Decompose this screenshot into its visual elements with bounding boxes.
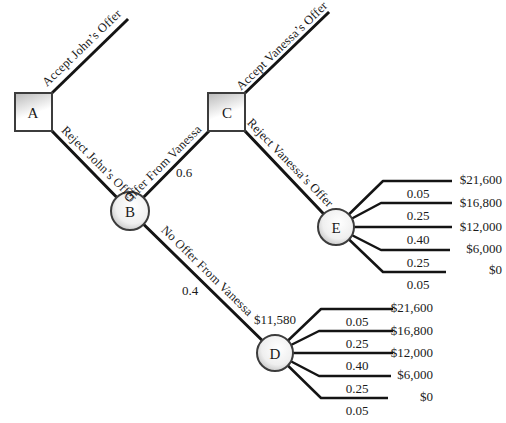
e-fan-prob-2: 0.25 bbox=[407, 209, 430, 222]
node-e-label: E bbox=[331, 221, 340, 236]
d-fan-prob-2: 0.25 bbox=[346, 337, 369, 350]
decision-tree-figure: A B C D E Accept John’s Offer Reject Joh… bbox=[0, 0, 506, 423]
e-fan-payoff-4: $6,000 bbox=[466, 242, 502, 255]
d-fan-prob-4: 0.25 bbox=[346, 382, 369, 395]
d-fan-payoff-3: $12,000 bbox=[391, 346, 433, 359]
offer-vanessa-probability: 0.6 bbox=[176, 166, 192, 179]
d-fan-payoff-5: $0 bbox=[420, 390, 433, 403]
e-fan-prob-5: 0.05 bbox=[407, 278, 430, 291]
d-fan-prob-5: 0.05 bbox=[346, 404, 369, 417]
node-d-value-label: $11,580 bbox=[254, 313, 296, 326]
node-d-label: D bbox=[270, 347, 281, 362]
e-fan-payoff-3: $12,000 bbox=[460, 220, 502, 233]
branch-accept-vanessa-line bbox=[245, 13, 328, 93]
e-fan-payoff-2: $16,800 bbox=[460, 196, 502, 209]
node-c-label: C bbox=[222, 106, 232, 121]
branch-reject-vanessa-line bbox=[245, 131, 336, 227]
branch-no-offer-vanessa-line bbox=[130, 211, 275, 353]
e-fan-prob-3: 0.40 bbox=[407, 233, 430, 246]
e-fan-prob-1: 0.05 bbox=[407, 187, 430, 200]
e-fan-prob-4: 0.25 bbox=[407, 256, 430, 269]
d-fan-payoff-4: $6,000 bbox=[397, 368, 433, 381]
e-fan-payoff-1: $21,600 bbox=[460, 173, 502, 186]
node-b-label: B bbox=[125, 205, 135, 220]
no-offer-vanessa-probability: 0.4 bbox=[182, 284, 198, 297]
d-fan-prob-1: 0.05 bbox=[346, 315, 369, 328]
d-fan-payoff-1: $21,600 bbox=[391, 301, 433, 314]
e-fan-payoff-5: $0 bbox=[489, 263, 502, 276]
d-fan-payoff-2: $16,800 bbox=[391, 324, 433, 337]
d-fan-prob-3: 0.40 bbox=[346, 359, 369, 372]
node-a-label: A bbox=[28, 106, 39, 121]
